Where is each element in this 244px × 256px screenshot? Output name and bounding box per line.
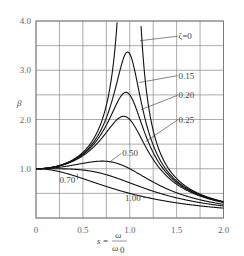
- label-leader: [140, 36, 177, 40]
- curve-label: 1.00: [125, 193, 141, 203]
- svg-text:s: s: [97, 236, 101, 246]
- y-tick-labels: 1.02.03.04.0: [20, 16, 32, 174]
- svg-text:=: =: [103, 236, 108, 246]
- x-tick-label: 1.0: [124, 225, 136, 235]
- frequency-response-chart: 00.51.01.52.0 1.02.03.04.0 ζ=00.150.200.…: [0, 0, 244, 256]
- x-axis-label: s = ω ω 0: [97, 230, 127, 255]
- curve-label: 0.50: [122, 148, 138, 158]
- svg-text:ω: ω: [115, 230, 121, 240]
- x-tick-label: 1.5: [171, 225, 183, 235]
- x-tick-labels: 00.51.01.52.0: [34, 225, 230, 235]
- label-leader: [109, 153, 121, 162]
- curve-label: 0.20: [179, 90, 195, 100]
- curve-label: 0.70: [59, 175, 75, 185]
- y-tick-label: 4.0: [20, 16, 32, 26]
- svg-text:0: 0: [120, 245, 125, 255]
- y-tick-label: 2.0: [20, 115, 32, 125]
- x-tick-label: 0: [34, 225, 39, 235]
- label-leader: [141, 95, 178, 109]
- y-axis-label: β: [16, 98, 22, 108]
- x-tick-label: 2.0: [218, 225, 230, 235]
- x-tick-label: 0.5: [77, 225, 89, 235]
- curve-label: 0.15: [179, 71, 195, 81]
- y-tick-label: 1.0: [20, 164, 32, 174]
- y-tick-label: 3.0: [20, 65, 32, 75]
- curve-label: 0.25: [179, 115, 195, 125]
- curve-zeta-0: [36, 22, 117, 168]
- label-leader: [146, 120, 178, 142]
- curve-label: ζ=0: [179, 31, 193, 41]
- svg-text:ω: ω: [112, 243, 118, 253]
